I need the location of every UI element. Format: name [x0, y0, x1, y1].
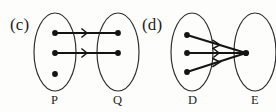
node-dot-p1	[52, 30, 58, 36]
panel-c	[34, 13, 139, 91]
set-label-d: D	[188, 94, 197, 107]
panel-caption-d: (d)	[142, 16, 162, 33]
set-label-p: P	[51, 94, 58, 107]
node-dot-q1	[115, 30, 121, 36]
node-dot-q2	[115, 50, 121, 56]
node-dot-e1	[243, 50, 249, 56]
panel-caption-c: (c)	[10, 16, 29, 33]
node-dot-d1	[184, 32, 190, 38]
set-ellipse-d	[171, 13, 213, 91]
node-dot-d3	[184, 69, 190, 75]
node-dot-p2	[52, 50, 58, 56]
mapping-diagram-figure: (c) (d) P Q D E	[0, 0, 276, 112]
set-label-e: E	[251, 94, 259, 107]
set-label-q: Q	[113, 94, 122, 107]
node-dot-p3	[52, 71, 58, 77]
panel-d	[171, 13, 276, 91]
diagram-canvas	[0, 0, 276, 112]
node-dot-d2	[184, 50, 190, 56]
